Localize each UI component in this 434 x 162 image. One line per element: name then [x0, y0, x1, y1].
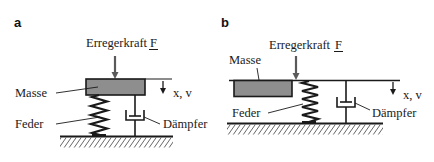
damper-leader-line: [355, 103, 370, 110]
diagram-canvas: a Erregerkraft F x, v Masse Feder: [0, 0, 434, 162]
panel-b: b Erregerkraft F Masse x, v Feder: [221, 15, 423, 135]
damper-leader-line: [144, 117, 160, 124]
spring-label-a: Feder: [15, 117, 44, 131]
damper-label-b: Dämpfer: [372, 106, 417, 120]
spring-leader-line: [268, 104, 303, 113]
force-label-b: Erregerkraft F: [269, 38, 343, 52]
displacement-label-a: x, v: [173, 86, 193, 100]
displacement-arrow-icon: [390, 82, 396, 95]
force-text: Erregerkraft: [86, 36, 148, 50]
damper-icon: [337, 81, 355, 123]
mass-label-b: Masse: [229, 53, 261, 67]
mass-label-a: Masse: [15, 86, 47, 100]
spring-icon: [91, 95, 107, 135]
spring-label-b: Feder: [232, 106, 261, 120]
spring-icon: [302, 81, 318, 122]
force-arrow-icon: [112, 56, 119, 79]
panel-label-b: b: [221, 15, 229, 30]
displacement-arrow-icon: [160, 81, 166, 94]
force-symbol: F: [335, 38, 342, 52]
force-text: Erregerkraft: [269, 38, 331, 52]
displacement-label-b: x, v: [403, 88, 423, 102]
force-arrow-icon: [293, 56, 300, 80]
panel-a: a Erregerkraft F x, v Masse Feder: [14, 15, 208, 148]
mass-block-b: [234, 81, 292, 97]
ground-hatch-b: [227, 125, 383, 135]
damper-label-a: Dämpfer: [163, 117, 208, 131]
force-label-a: Erregerkraft F: [86, 36, 158, 50]
ground-hatch-a: [60, 138, 173, 148]
damper-icon: [126, 95, 144, 136]
panel-label-a: a: [14, 15, 22, 30]
force-symbol: F: [150, 36, 157, 50]
